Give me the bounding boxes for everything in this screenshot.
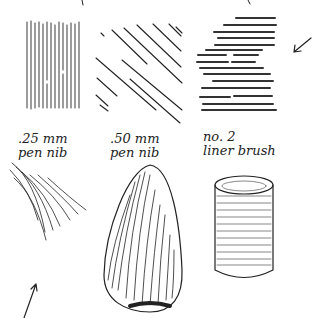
shaded-egg: [104, 165, 182, 312]
diagonal-hatching: [96, 24, 182, 123]
arrow-down-left-icon: [294, 38, 311, 52]
curved-hatching-strokes: [10, 163, 86, 240]
shaded-cylinder: [215, 176, 273, 278]
vertical-hatching: [27, 21, 79, 109]
horizontal-brush-strokes: [197, 18, 276, 110]
label-size: .50 mm: [110, 132, 159, 146]
label-025-pen-nib: .25 mm pen nib: [18, 132, 67, 160]
label-tool: pen nib: [110, 146, 159, 160]
label-050-pen-nib: .50 mm pen nib: [110, 132, 159, 160]
label-liner-brush: no. 2 liner brush: [203, 130, 276, 158]
label-size: no. 2: [203, 130, 276, 144]
label-size: .25 mm: [18, 132, 67, 146]
arrow-up-right-icon: [24, 284, 37, 318]
label-tool: liner brush: [203, 144, 276, 158]
label-tool: pen nib: [18, 146, 67, 160]
